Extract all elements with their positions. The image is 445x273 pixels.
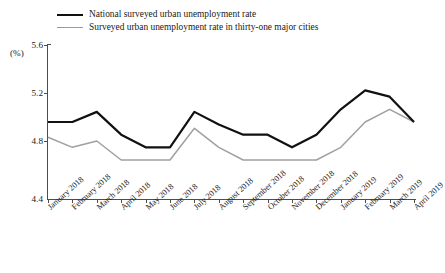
x-tick-16 [414, 199, 415, 203]
x-tick-14 [365, 199, 366, 203]
x-tick-3 [97, 199, 98, 203]
x-tick-12 [316, 199, 317, 203]
x-tick-6 [170, 199, 171, 203]
x-tick-7 [194, 199, 195, 203]
x-tick-13 [341, 199, 342, 203]
x-tick-1 [48, 199, 49, 203]
x-tick-2 [72, 199, 73, 203]
x-tick-5 [146, 199, 147, 203]
x-tick-4 [121, 199, 122, 203]
x-tick-8 [219, 199, 220, 203]
x-tick-9 [243, 199, 244, 203]
x-tick-10 [268, 199, 269, 203]
x-tick-11 [292, 199, 293, 203]
x-tick-15 [390, 199, 391, 203]
